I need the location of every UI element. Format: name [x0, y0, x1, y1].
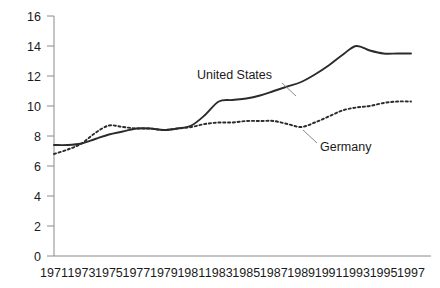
- series-label-united-states: United States: [197, 68, 272, 82]
- chart-canvas: 0246810121416 19711973197519771979198119…: [0, 0, 440, 288]
- y-tick-label: 12: [27, 70, 41, 84]
- x-tick-label: 1983: [205, 266, 233, 280]
- x-tick-label: 1973: [68, 266, 96, 280]
- y-tick-label: 4: [34, 190, 41, 204]
- x-axis: 1971197319751977197919811983198519871989…: [40, 266, 425, 280]
- y-tick-label: 10: [27, 100, 41, 114]
- x-tick-label: 1979: [150, 266, 178, 280]
- x-tick-label: 1987: [260, 266, 288, 280]
- x-tick-label: 1997: [397, 266, 425, 280]
- x-tick-label: 1977: [122, 266, 150, 280]
- y-tick-label: 8: [34, 130, 41, 144]
- y-tick-label: 2: [34, 220, 41, 234]
- y-tick-label: 16: [27, 10, 41, 24]
- x-tick-label: 1991: [315, 266, 343, 280]
- x-tick-label: 1971: [40, 266, 68, 280]
- x-tick-label: 1985: [232, 266, 260, 280]
- x-tick-label: 1981: [177, 266, 205, 280]
- y-tick-label: 14: [27, 40, 41, 54]
- y-tick-label: 6: [34, 160, 41, 174]
- x-tick-label: 1989: [287, 266, 315, 280]
- plot-background: [0, 0, 440, 288]
- y-tick-label: 0: [34, 250, 41, 264]
- series-label-germany: Germany: [320, 140, 372, 154]
- x-tick-label: 1975: [95, 266, 123, 280]
- x-tick-label: 1993: [342, 266, 370, 280]
- x-tick-label: 1995: [370, 266, 398, 280]
- line-chart: 0246810121416 19711973197519771979198119…: [0, 0, 440, 288]
